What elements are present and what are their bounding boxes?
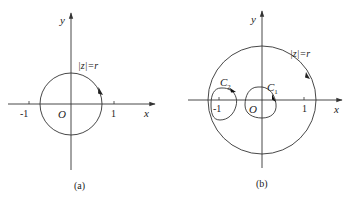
tick-label-plus-1: 1 <box>111 108 116 119</box>
tick-label-minus-1: -1 <box>213 103 221 114</box>
x-axis-label: x <box>333 103 339 115</box>
caption-b: (b) <box>256 178 268 190</box>
c2-direction-arrow-icon <box>230 88 236 93</box>
caption-a: (a) <box>74 180 85 192</box>
circle-label: |z|=r <box>78 60 98 71</box>
tick-label-plus-1: 1 <box>302 103 307 114</box>
origin-label: O <box>58 108 66 120</box>
tick-label-minus-1: -1 <box>20 108 28 119</box>
direction-arrow-icon <box>98 87 103 95</box>
figure-b: y x O -1 1 |z|=r C2 C1 (b) <box>188 11 342 190</box>
contour-diagram: y x O -1 1 |z|=r (a) y x O -1 1 |z|=r <box>0 0 353 200</box>
y-axis-label: y <box>250 13 256 25</box>
y-axis-label: y <box>59 14 65 26</box>
origin-label: O <box>249 103 257 115</box>
circle-label: |z|=r <box>290 48 310 59</box>
figure-a: y x O -1 1 |z|=r (a) <box>8 13 155 192</box>
x-axis-label: x <box>143 107 149 119</box>
